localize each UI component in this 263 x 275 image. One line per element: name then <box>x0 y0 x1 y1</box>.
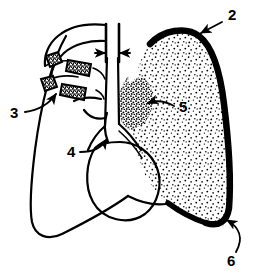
callout-2: 2 <box>201 6 236 33</box>
callout-3-leader <box>25 94 56 112</box>
callout-3-label: 3 <box>10 104 18 121</box>
callout-6-label: 6 <box>227 252 235 269</box>
callout-6: 6 <box>227 220 240 269</box>
callout-6-leader <box>227 220 240 252</box>
clavicle-and-rib-segments <box>41 24 106 100</box>
callout-2-leader <box>201 22 222 33</box>
callout-3: 3 <box>10 94 56 121</box>
chest-diagram-figure: 2 3 4 5 6 <box>0 0 263 275</box>
callout-4: 4 <box>67 139 107 160</box>
mediastinal-measurement <box>95 24 130 62</box>
callout-2-label: 2 <box>228 6 236 23</box>
diagram-canvas: 2 3 4 5 6 <box>0 0 263 275</box>
rib-segment-lower <box>41 76 86 100</box>
callout-5-label: 5 <box>179 98 187 115</box>
callout-4-label: 4 <box>67 143 76 160</box>
